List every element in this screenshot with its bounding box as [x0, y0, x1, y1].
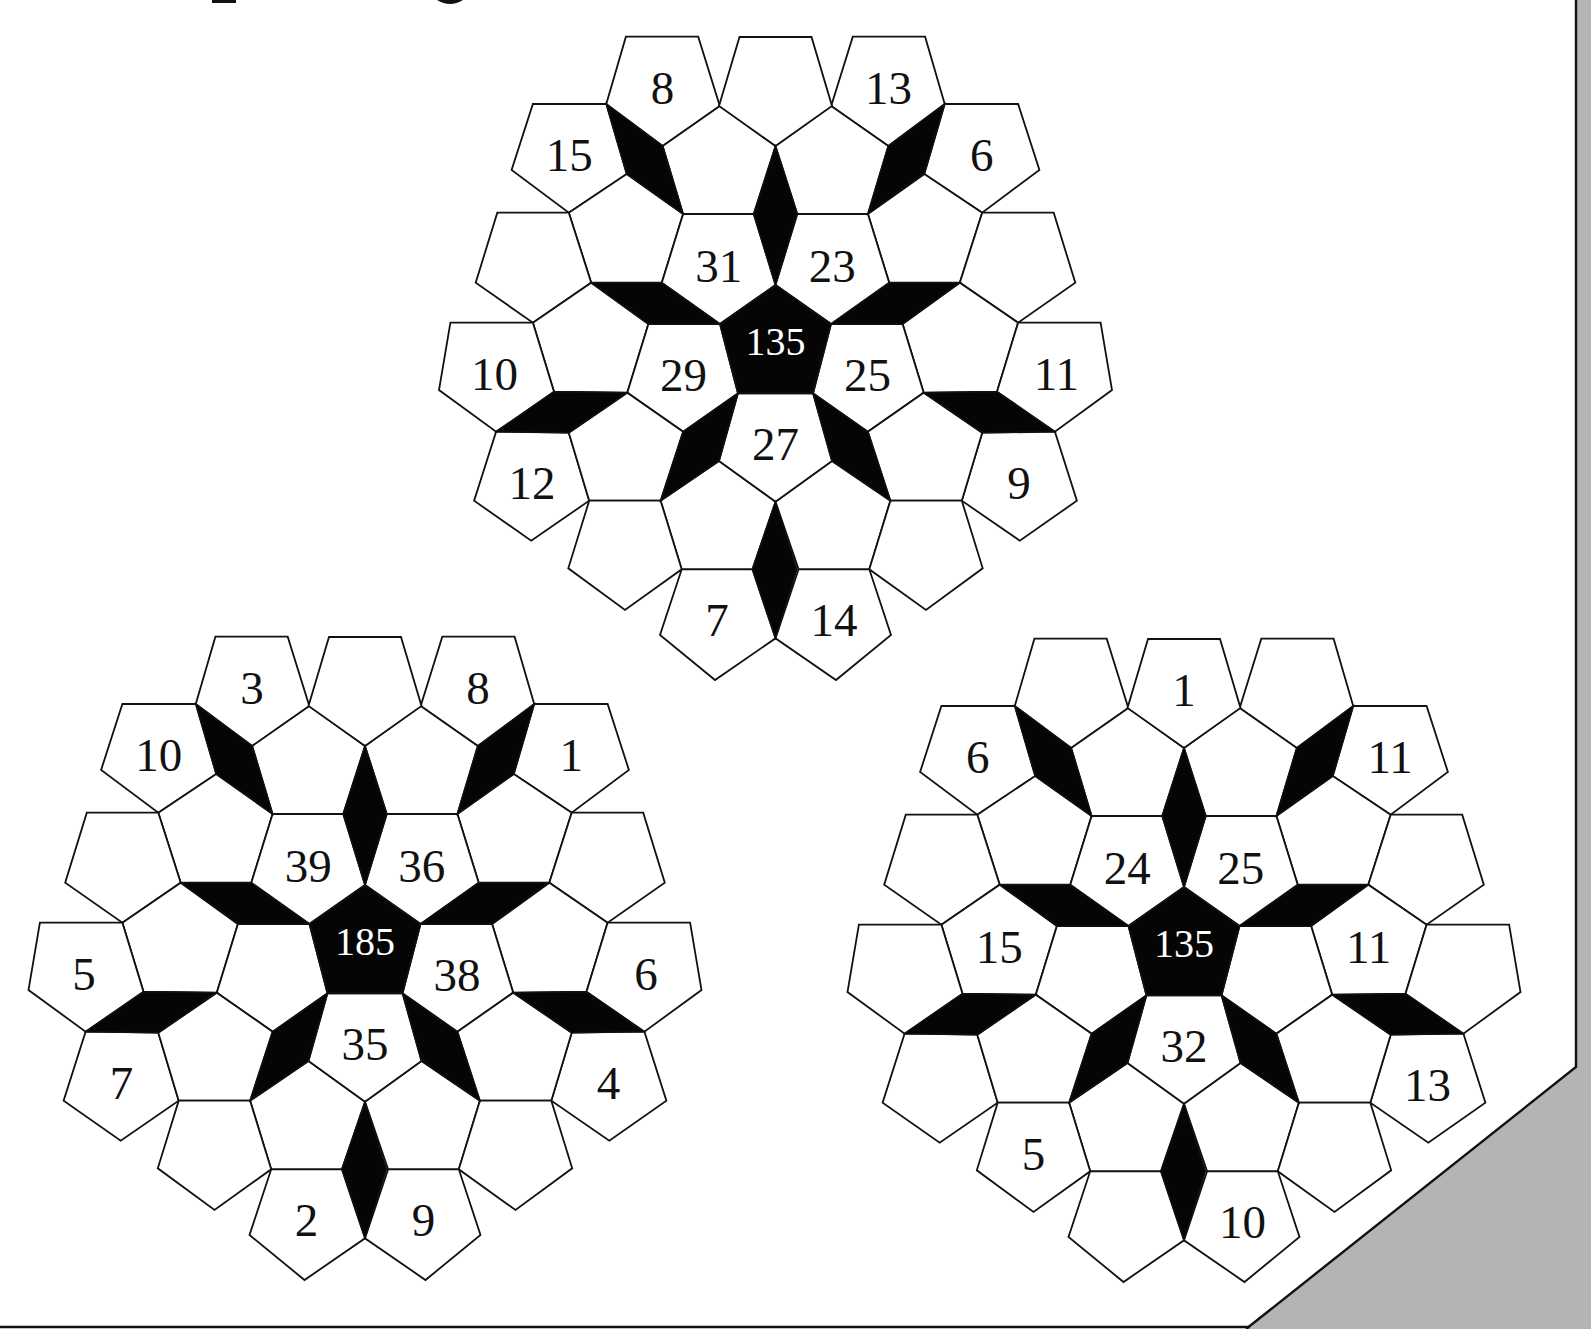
- cell-number: 11: [1368, 731, 1413, 783]
- puzzle-page: 8131563123292510111297142713538101393638…: [0, 0, 1591, 1329]
- center-sum-number: 135: [746, 319, 806, 364]
- cell-number: 14: [811, 594, 858, 646]
- cell-number: 24: [1104, 842, 1151, 894]
- cell-number: 32: [1161, 1020, 1208, 1072]
- pentagon-shape: [568, 501, 681, 610]
- pentagon-shape: [158, 1101, 271, 1210]
- cell-number: 6: [970, 129, 994, 181]
- cell-number: 10: [135, 729, 182, 781]
- title-fragment-g-descender: [437, 0, 463, 4]
- cell-number: 9: [1007, 457, 1031, 509]
- cell-number: 27: [752, 418, 799, 470]
- pentagon-cell-outlow-l: 5: [977, 1103, 1090, 1212]
- cell-number: 11: [1346, 921, 1391, 973]
- pentagon-cell-low-out-r: 13: [1370, 1034, 1485, 1143]
- cell-number: 25: [844, 349, 891, 401]
- pentagon-cell-outlow-l[interactable]: [568, 501, 681, 610]
- cell-number: 13: [865, 62, 912, 114]
- cell-number: 9: [412, 1194, 436, 1246]
- pentagon-cell-outlow-r[interactable]: [869, 501, 982, 610]
- cell-number: 7: [110, 1057, 134, 1109]
- center-sum-number: 135: [1154, 921, 1214, 966]
- pentagon-cell-bot-r: 9: [365, 1169, 481, 1280]
- title-fragment-p-descender: [212, 0, 236, 3]
- bottom-right-puzzle: 6112425151113510132135: [848, 639, 1521, 1282]
- cell-number: 39: [285, 840, 332, 892]
- bottom-left-puzzle: 3810139363856742935185: [29, 637, 702, 1280]
- cell-number: 12: [508, 457, 555, 509]
- cell-number: 5: [72, 948, 96, 1000]
- cell-number: 11: [1034, 348, 1079, 400]
- cell-number: 8: [466, 662, 490, 714]
- pentagon-cell-low-out-r: 9: [962, 432, 1077, 541]
- cell-number: 3: [240, 662, 264, 714]
- cell-number: 10: [471, 348, 518, 400]
- cell-number: 1: [1172, 664, 1196, 716]
- cell-number: 5: [1022, 1128, 1046, 1180]
- cell-number: 38: [434, 949, 481, 1001]
- pentagon-shape: [459, 1101, 572, 1210]
- pentagon-shape: [1278, 1103, 1391, 1212]
- cell-number: 6: [966, 731, 990, 783]
- cell-number: 6: [634, 948, 658, 1000]
- cell-number: 1: [559, 729, 583, 781]
- pentagon-cell-outlow-r[interactable]: [1278, 1103, 1391, 1212]
- cell-number: 4: [597, 1057, 621, 1109]
- top-puzzle: 81315631232925101112971427135: [439, 37, 1112, 680]
- pentagon-cell-low-out-l[interactable]: [883, 1034, 998, 1143]
- pentagon-shape: [869, 501, 982, 610]
- pentagon-cell-low-out-r: 4: [551, 1032, 666, 1141]
- pentagon-cell-low-out-l: 7: [64, 1032, 179, 1141]
- cell-number: 29: [660, 349, 707, 401]
- cell-number: 15: [976, 921, 1023, 973]
- cell-number: 7: [705, 594, 729, 646]
- pentagon-cell-outlow-l[interactable]: [158, 1101, 271, 1210]
- cell-number: 8: [651, 62, 675, 114]
- pentagon-cell-bot-r: 14: [776, 569, 892, 680]
- cell-number: 10: [1219, 1196, 1266, 1248]
- cell-number: 36: [398, 840, 445, 892]
- center-sum-number: 185: [335, 919, 395, 964]
- pentagon-cell-outlow-r[interactable]: [459, 1101, 572, 1210]
- pentagon-cell-bot-r: 10: [1184, 1171, 1300, 1282]
- cell-number: 25: [1217, 842, 1264, 894]
- cell-number: 35: [342, 1018, 389, 1070]
- cell-number: 31: [695, 240, 742, 292]
- pentagon-shape: [883, 1034, 998, 1143]
- cell-number: 13: [1404, 1059, 1451, 1111]
- cell-number: 15: [546, 129, 593, 181]
- pentagon-cell-low-out-l: 12: [474, 432, 589, 541]
- cell-number: 23: [809, 240, 856, 292]
- cell-number: 2: [295, 1194, 319, 1246]
- puzzles-container: 8131563123292510111297142713538101393638…: [29, 37, 1521, 1282]
